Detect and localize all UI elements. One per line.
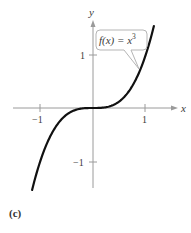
callout-exponent: 3 — [132, 32, 136, 41]
y-tick-label-1: 1 — [80, 50, 85, 61]
y-axis-arrow-icon — [91, 20, 96, 27]
y-tick-label-neg1: −1 — [73, 157, 84, 168]
x-tick-label-1: 1 — [142, 114, 147, 125]
callout-label: f(x) = x3 — [99, 32, 136, 47]
panel-label: (c) — [9, 207, 21, 219]
x-tick-label-neg1: −1 — [32, 114, 43, 125]
x-axis-label: x — [180, 102, 186, 114]
y-axis-label: y — [88, 6, 94, 18]
function-graph: x y −1 1 1 −1 f(x) = x3 — [0, 0, 191, 233]
callout-function-text: f(x) = x — [99, 34, 132, 47]
x-axis-arrow-icon — [171, 106, 178, 111]
